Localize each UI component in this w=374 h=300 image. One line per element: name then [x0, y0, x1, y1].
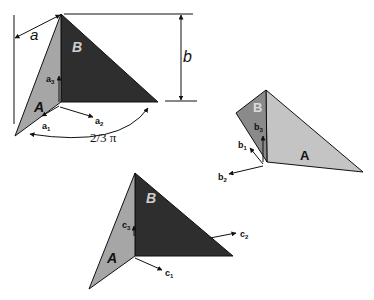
vector-b1-label: b1 — [238, 140, 248, 151]
vector-c1 — [135, 258, 162, 270]
dim-a-label: a — [30, 26, 38, 43]
vector-b2 — [229, 166, 263, 174]
vector-c2 — [210, 233, 236, 238]
face-b — [61, 14, 158, 102]
face-a — [89, 173, 135, 289]
dim-b-label: b — [183, 48, 192, 65]
vector-a1-label: a1 — [42, 121, 51, 132]
vector-c1-label: c1 — [165, 268, 174, 279]
face-a-label: A — [300, 148, 310, 163]
vector-b2-label: b2 — [218, 172, 228, 183]
face-b-label: B — [72, 39, 82, 55]
face-a-label: A — [106, 250, 117, 266]
configuration-b: B A b3 b1 b2 — [218, 90, 363, 183]
vector-c2-label: c2 — [240, 229, 249, 240]
angle-label: 2/3 π — [90, 130, 117, 145]
vector-a2-label: a2 — [95, 116, 104, 127]
face-b — [135, 173, 233, 256]
configuration-c: B A c3 c2 c1 — [89, 173, 249, 289]
face-a — [266, 90, 363, 172]
face-b-label: B — [253, 100, 262, 115]
configuration-a: a b B A a3 a2 a1 2/3 π — [14, 14, 197, 145]
diagram-canvas: a b B A a3 a2 a1 2/3 π B A b3 b1 b2 — [0, 0, 374, 300]
vector-a2 — [60, 107, 93, 117]
face-b-label: B — [146, 190, 156, 206]
face-a-label: A — [33, 99, 44, 115]
